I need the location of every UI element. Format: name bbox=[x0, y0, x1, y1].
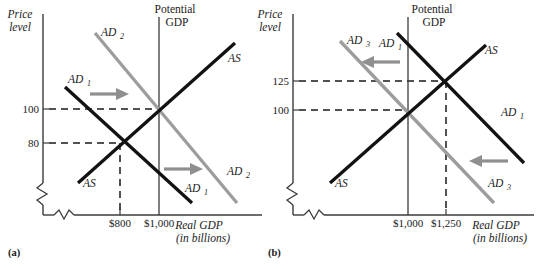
panel-a-label-AD1-upper: AD 1 bbox=[67, 73, 91, 88]
panel-a-potential-gdp-label-line1: Potential bbox=[155, 3, 196, 15]
panel-a-x-axis-title-line1: Real GDP bbox=[174, 219, 223, 231]
panel-b-potential-gdp-label-line2: GDP bbox=[422, 16, 445, 28]
panel-a-label-AD1-lower-base: AD bbox=[184, 182, 201, 194]
panel-a-y-tick-80: 80 bbox=[28, 137, 40, 149]
panel-a-shift-arrow-upper bbox=[90, 88, 129, 100]
panel-b: Price level Real GDP (in billions) 125 1… bbox=[257, 3, 534, 259]
panel-a-x-tick-1000: $1,000 bbox=[144, 217, 175, 229]
panel-b-y-tick-100: 100 bbox=[273, 104, 290, 116]
panel-a-y-axis-title-line2: level bbox=[9, 21, 31, 33]
panel-b-y-axis-title-line1: Price bbox=[257, 8, 283, 20]
panel-a-potential-gdp-label-line2: GDP bbox=[165, 16, 188, 28]
panel-b-label: (b) bbox=[268, 247, 281, 259]
panel-b-potential-gdp-label-line1: Potential bbox=[412, 3, 453, 15]
x-axis-break-icon bbox=[54, 210, 74, 219]
panel-b-label-AD1-upper: AD 1 bbox=[378, 37, 402, 52]
panel-a-label-AD1-upper-sub: 1 bbox=[87, 79, 91, 88]
panel-b-shift-arrow-upper bbox=[361, 56, 400, 68]
panel-a-curve-AS bbox=[78, 43, 235, 183]
panel-a-label-AD1-lower-sub: 1 bbox=[204, 188, 208, 197]
panel-b-x-tick-1250: $1,250 bbox=[431, 217, 462, 229]
panel-a-y-axis-title-line1: Price bbox=[7, 8, 33, 20]
panel-a-label-AS-lower: AS bbox=[82, 177, 96, 189]
panel-b-label-AD3-upper-base: AD bbox=[346, 34, 363, 46]
panel-b-label-AD1-upper-base: AD bbox=[378, 37, 395, 49]
panel-b-y-tick-125: 125 bbox=[273, 75, 290, 87]
panel-b-label-AD1-lower-base: AD bbox=[500, 106, 517, 118]
panel-b-label-AD3-upper: AD 3 bbox=[346, 34, 370, 49]
panel-b-label-AD3-lower-sub: 3 bbox=[506, 183, 511, 192]
economics-figure: Price level Real GDP (in billions) 100 8… bbox=[0, 0, 539, 269]
arrow-head-left-icon bbox=[469, 155, 482, 167]
panel-b-x-tick-1000: $1,000 bbox=[393, 217, 424, 229]
panel-a-label: (a) bbox=[8, 247, 21, 259]
arrow-head-right-icon bbox=[190, 163, 203, 175]
panel-a-y-tick-100: 100 bbox=[23, 103, 40, 115]
panel-a-label-AD2-lower: AD 2 bbox=[226, 165, 250, 180]
panel-b-x-axis-title-line1: Real GDP bbox=[471, 219, 520, 231]
panel-b-y-axis-title-line2: level bbox=[259, 21, 281, 33]
x-axis-break-icon bbox=[304, 210, 324, 219]
panel-b-label-AD3-upper-sub: 3 bbox=[365, 40, 370, 49]
panel-b-label-AD1-lower: AD 1 bbox=[500, 106, 524, 121]
figure-svg: Price level Real GDP (in billions) 100 8… bbox=[0, 0, 539, 269]
panel-b-curve-AD3 bbox=[340, 41, 494, 203]
panel-b-label-AS-upper: AS bbox=[484, 44, 498, 56]
panel-a-label-AD2-lower-sub: 2 bbox=[246, 171, 250, 180]
panel-a-label-AD2-lower-base: AD bbox=[226, 165, 243, 177]
y-axis-break-icon bbox=[287, 183, 297, 205]
panel-b-shift-arrow-lower bbox=[469, 155, 508, 167]
panel-a-label-AD1-upper-base: AD bbox=[67, 73, 84, 85]
panel-b-curve-AD1 bbox=[397, 33, 524, 163]
panel-a-label-AD1-lower: AD 1 bbox=[184, 182, 208, 197]
arrow-head-right-icon bbox=[116, 88, 129, 100]
panel-b-label-AD1-lower-sub: 1 bbox=[520, 112, 524, 121]
panel-b-label-AD1-upper-sub: 1 bbox=[398, 43, 402, 52]
panel-b-label-AD3-lower: AD 3 bbox=[487, 177, 511, 192]
panel-a-x-tick-800: $800 bbox=[109, 217, 132, 229]
panel-a-shift-arrow-lower bbox=[164, 163, 203, 175]
panel-a-label-AD2-upper-sub: 2 bbox=[120, 32, 124, 41]
panel-a-x-axis-title-line2: (in billions) bbox=[176, 232, 230, 245]
panel-a-label-AS-upper: AS bbox=[227, 52, 241, 64]
y-axis-break-icon bbox=[37, 183, 47, 205]
panel-b-label-AS-lower: AS bbox=[334, 177, 348, 189]
panel-a: Price level Real GDP (in billions) 100 8… bbox=[7, 3, 262, 259]
panel-b-x-axis-title-line2: (in billions) bbox=[473, 232, 527, 245]
panel-b-label-AD3-lower-base: AD bbox=[487, 177, 504, 189]
panel-a-label-AD2-upper: AD 2 bbox=[100, 26, 124, 41]
panel-a-label-AD2-upper-base: AD bbox=[100, 26, 117, 38]
